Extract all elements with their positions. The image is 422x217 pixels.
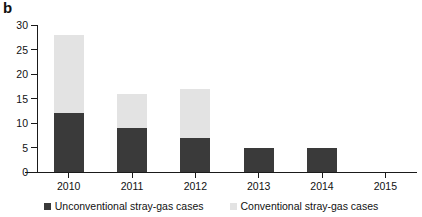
stray-gas-cases-figure: b 051015202530 201020112012201320142015 … xyxy=(0,0,422,217)
y-tick-label: 5 xyxy=(2,143,28,153)
x-tick-label: 2011 xyxy=(110,181,154,192)
x-tick-mark xyxy=(68,173,69,178)
plot-area xyxy=(37,25,417,172)
x-tick-mark xyxy=(132,173,133,178)
bar-segment xyxy=(244,148,274,173)
bar-segment xyxy=(180,138,210,172)
legend-item-conventional[interactable]: Conventional stray-gas cases xyxy=(230,201,379,212)
bar-2011[interactable] xyxy=(117,94,147,172)
x-tick-label: 2015 xyxy=(363,181,407,192)
x-tick-mark xyxy=(195,173,196,178)
bar-segment xyxy=(117,128,147,172)
bar-segment xyxy=(54,113,84,172)
legend-item-unconventional[interactable]: Unconventional stray-gas cases xyxy=(44,201,204,212)
x-tick-label: 2012 xyxy=(173,181,217,192)
x-tick-mark xyxy=(258,173,259,178)
x-tick-label: 2010 xyxy=(47,181,91,192)
y-tick-label: 20 xyxy=(2,69,28,79)
legend-swatch-icon xyxy=(230,203,237,210)
legend-label: Conventional stray-gas cases xyxy=(241,201,379,212)
bar-segment xyxy=(180,89,210,138)
y-tick-label: 25 xyxy=(2,45,28,55)
y-tick-label: 10 xyxy=(2,118,28,128)
x-axis-line xyxy=(25,172,417,173)
bar-2013[interactable] xyxy=(244,148,274,173)
x-tick-mark xyxy=(322,173,323,178)
legend-swatch-icon xyxy=(44,203,51,210)
bar-2014[interactable] xyxy=(307,148,337,173)
bar-2012[interactable] xyxy=(180,89,210,172)
x-tick-label: 2013 xyxy=(237,181,281,192)
legend-label: Unconventional stray-gas cases xyxy=(55,201,204,212)
bar-2010[interactable] xyxy=(54,35,84,172)
x-tick-mark xyxy=(385,173,386,178)
bar-segment xyxy=(54,35,84,113)
panel-label: b xyxy=(3,0,12,16)
x-tick-label: 2014 xyxy=(300,181,344,192)
y-tick-label: 0 xyxy=(2,167,28,177)
chart-legend: Unconventional stray-gas casesConvention… xyxy=(0,198,422,214)
bar-segment xyxy=(117,94,147,128)
y-tick-label: 15 xyxy=(2,94,28,104)
bar-segment xyxy=(307,148,337,173)
y-tick-label: 30 xyxy=(2,20,28,30)
